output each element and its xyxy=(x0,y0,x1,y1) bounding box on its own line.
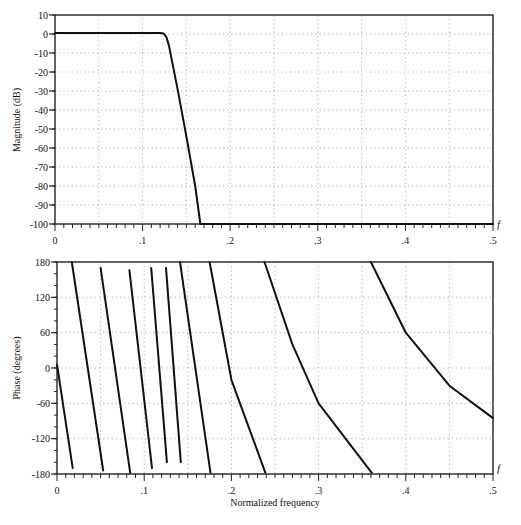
phase-y-axis-title: Phase (degrees) xyxy=(11,336,23,399)
y-tick-label: -10 xyxy=(35,48,48,59)
series-line-phase-seg-6 xyxy=(166,268,181,462)
series-line-phase-seg-2 xyxy=(72,262,103,471)
y-tick-label: -60 xyxy=(35,143,48,154)
bode-plot: 0.1.2.3.4.5100-10-20-30-40-50-60-70-80-9… xyxy=(0,0,521,525)
x-tick-label: .2 xyxy=(228,485,236,496)
series-line-phase-seg-8 xyxy=(210,262,266,473)
series-line-phase-seg-7 xyxy=(180,262,211,473)
series-line-phase-seg-5 xyxy=(151,268,167,462)
mag-f-axis-symbol: f xyxy=(497,218,502,230)
y-tick-label: 0 xyxy=(43,29,48,40)
y-tick-label: -100 xyxy=(30,219,48,230)
x-tick-label: 0 xyxy=(55,485,60,496)
y-tick-label: -70 xyxy=(35,162,48,173)
x-tick-label: .1 xyxy=(139,235,147,246)
magnitude-y-axis-title: Magnitude (dB) xyxy=(11,88,23,152)
series-line-phase-seg-1 xyxy=(57,365,73,469)
x-tick-label: 0 xyxy=(53,235,58,246)
magnitude-panel: 0.1.2.3.4.5100-10-20-30-40-50-60-70-80-9… xyxy=(30,10,497,247)
plot-frame xyxy=(55,15,493,224)
phase-f-axis-symbol: f xyxy=(497,462,502,474)
y-tick-label: -30 xyxy=(35,86,48,97)
y-tick-label: -40 xyxy=(35,105,48,116)
series-line-phase-seg-10 xyxy=(371,262,493,418)
y-tick-label: -50 xyxy=(35,124,48,135)
y-tick-label: -20 xyxy=(35,67,48,78)
series-line-phase-seg-9 xyxy=(265,262,372,473)
x-tick-label: .5 xyxy=(489,485,497,496)
y-tick-label: 0 xyxy=(45,363,50,374)
y-tick-label: -120 xyxy=(32,433,50,444)
x-tick-label: .5 xyxy=(489,235,497,246)
y-tick-label: -90 xyxy=(35,200,48,211)
x-tick-label: .3 xyxy=(315,485,323,496)
y-tick-label: 120 xyxy=(35,292,50,303)
x-tick-label: .1 xyxy=(140,485,148,496)
y-tick-label: -80 xyxy=(35,181,48,192)
x-tick-label: .4 xyxy=(402,235,410,246)
y-tick-label: -60 xyxy=(37,398,50,409)
y-tick-label: 10 xyxy=(38,10,48,21)
series-line-phase-seg-3 xyxy=(101,268,131,473)
y-tick-label: 60 xyxy=(40,327,50,338)
x-axis-title: Normalized frequency xyxy=(230,497,320,508)
x-tick-label: .2 xyxy=(226,235,234,246)
phase-panel: 0.1.2.3.4.5180120600-60-120-180 xyxy=(32,257,497,497)
x-tick-label: .3 xyxy=(314,235,322,246)
x-tick-label: .4 xyxy=(402,485,410,496)
y-tick-label: -180 xyxy=(32,469,50,480)
y-tick-label: 180 xyxy=(35,257,50,268)
